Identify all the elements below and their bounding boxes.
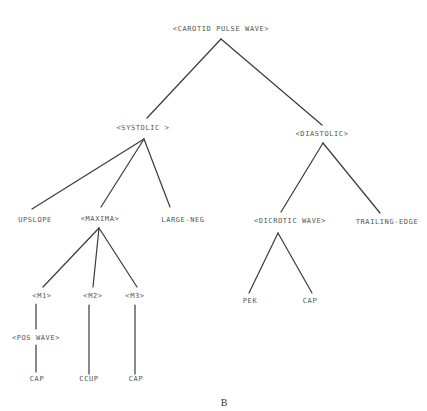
parse-tree-diagram: <CAROTID PULSE WAVE> <SYSTOLIC > <DIASTO… [0, 0, 427, 411]
tree-edges [0, 0, 427, 411]
node-m2: <M2> [83, 293, 102, 300]
node-carotid-pulse-wave: <CAROTID PULSE WAVE> [173, 26, 269, 33]
node-dicrotic-wave: <DICROTIC WAVE> [254, 218, 326, 225]
node-m2-ccup: CCUP [79, 376, 98, 383]
edge-root-systolic [147, 39, 221, 118]
edge-maxima-m2 [93, 228, 99, 287]
edge-dicrotic-pek [249, 233, 278, 293]
edge-systolic-upslope [32, 139, 144, 209]
edge-dicrotic-cap [278, 233, 312, 293]
node-systolic: <SYSTOLIC > [117, 125, 170, 132]
node-upslope: UPSLOPE [18, 217, 52, 224]
figure-caption: B [221, 397, 228, 408]
node-maxima: <MAXIMA> [81, 216, 120, 223]
node-m1: <M1> [32, 293, 51, 300]
node-dicrotic-cap: CAP [303, 298, 317, 305]
node-m1-cap: CAP [30, 376, 44, 383]
node-m3: <M3> [125, 293, 144, 300]
edge-root-diastolic [221, 39, 322, 125]
edge-maxima-m3 [99, 228, 137, 287]
edge-systolic-large-neg [144, 139, 170, 207]
node-trailing-edge: TRAILING-EDGE [356, 219, 419, 226]
edge-diastolic-dicrotic-wave [281, 143, 323, 212]
node-pek: PEK [243, 298, 257, 305]
node-diastolic: <DIASTOLIC> [296, 131, 349, 138]
node-pos-wave: <POS WAVE> [12, 335, 60, 342]
edge-maxima-m1 [43, 228, 99, 287]
node-large-neg: LARGE-NEG [161, 217, 204, 224]
edge-diastolic-trailing-edge [323, 143, 380, 213]
node-m3-cap: CAP [129, 376, 143, 383]
edge-systolic-maxima [101, 139, 144, 207]
